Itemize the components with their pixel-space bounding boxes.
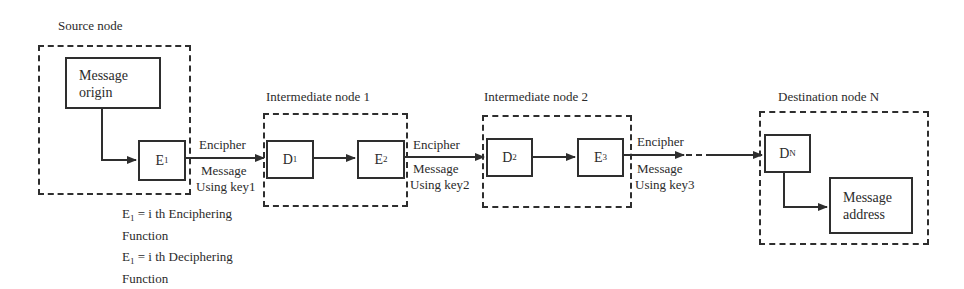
e3-box: E3	[577, 138, 624, 177]
legend-dec-text: = i th Deciphering	[134, 249, 232, 264]
legend-dec-line2: Function	[122, 270, 233, 287]
link1-key-label: Using key1	[196, 179, 256, 194]
message-origin-line2: origin	[79, 84, 159, 101]
legend-enc-line2: Function	[122, 227, 232, 244]
d1-sub: 1	[293, 151, 298, 168]
d1-box: D1	[266, 140, 314, 179]
link3-message-label: Message	[637, 161, 683, 176]
e1-sub: 1	[164, 152, 169, 169]
dn-box: DN	[764, 134, 811, 173]
e2-box: E2	[357, 140, 405, 179]
message-address-box: Message address	[829, 177, 913, 234]
d1-base: D	[283, 151, 293, 168]
dn-base: D	[779, 145, 789, 162]
destination-node-label: Destination node N	[778, 89, 879, 104]
e1-box: E1	[138, 140, 186, 181]
d2-sub: 2	[512, 149, 517, 166]
legend-deciphering: E1 = i th Deciphering Function	[122, 248, 233, 287]
e3-sub: 3	[603, 149, 608, 166]
message-origin-line1: Message	[79, 67, 159, 84]
intermediate-node-2-label: Intermediate node 2	[484, 89, 588, 104]
encryption-diagram: Source node Message origin E1 Encipher M…	[0, 0, 964, 289]
message-address-line2: address	[843, 206, 911, 223]
link1-message-label: Message	[201, 163, 247, 178]
link2-encipher-label: Encipher	[413, 137, 460, 152]
dn-sub: N	[789, 145, 796, 162]
intermediate-node-1-label: Intermediate node 1	[266, 89, 370, 104]
message-address-line1: Message	[843, 189, 911, 206]
link3-encipher-label: Encipher	[637, 134, 684, 149]
e2-sub: 2	[383, 151, 388, 168]
link3-key-label: Using key3	[635, 177, 695, 192]
link1-encipher-label: Encipher	[199, 137, 246, 152]
link2-message-label: Message	[413, 161, 459, 176]
d2-box: D2	[486, 138, 533, 177]
legend-enciphering: E1 = i th Enciphering Function	[122, 205, 232, 244]
legend-enc-base: E	[122, 206, 130, 221]
e2-base: E	[374, 151, 383, 168]
legend-dec-base: E	[122, 249, 130, 264]
source-node-label: Source node	[58, 18, 123, 33]
e1-base: E	[155, 152, 164, 169]
d2-base: D	[502, 149, 512, 166]
message-origin-box: Message origin	[65, 57, 161, 109]
link2-key-label: Using key2	[410, 177, 470, 192]
legend-enc-text: = i th Enciphering	[134, 206, 232, 221]
e3-base: E	[594, 149, 603, 166]
